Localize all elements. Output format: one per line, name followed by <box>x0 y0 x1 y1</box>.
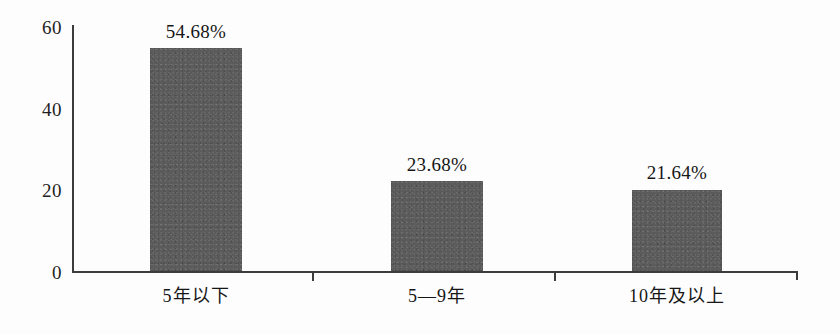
bar-2-value-label: 23.68% <box>377 155 497 175</box>
bar-2 <box>391 181 483 271</box>
bar-1 <box>150 48 242 271</box>
category-label-2: 5—9年 <box>367 285 507 307</box>
y-tick-label-60: 60 <box>16 18 62 37</box>
x-axis-line <box>72 271 798 273</box>
category-label-3: 10年及以上 <box>607 285 747 307</box>
y-tick-label-0: 0 <box>16 263 62 282</box>
bar-3 <box>632 190 722 271</box>
y-tick-label-20: 20 <box>16 181 62 200</box>
x-axis-tick-1 <box>312 272 314 281</box>
x-axis-tick-2 <box>554 272 556 281</box>
bar-1-value-label: 54.68% <box>136 22 256 42</box>
bar-3-value-label: 21.64% <box>617 163 737 183</box>
y-tick-label-40: 40 <box>16 100 62 119</box>
y-axis-line <box>72 25 74 273</box>
x-axis-end-tick <box>796 271 798 280</box>
bar-chart: 60 40 20 0 54.68% 5年以下 23.68% 5—9年 21.64… <box>0 0 840 335</box>
category-label-1: 5年以下 <box>126 285 266 307</box>
